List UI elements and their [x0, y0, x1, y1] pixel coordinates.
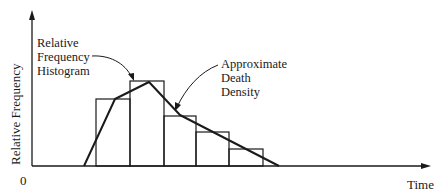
origin-label: 0 [20, 173, 27, 188]
histogram-label-line: Frequency [37, 50, 91, 64]
diagram: Relative Frequency Time 0 Relative Frequ… [0, 0, 439, 194]
diagram-canvas: Relative Frequency Time 0 Relative Frequ… [0, 0, 439, 194]
density-label-line: Death [221, 71, 252, 85]
y-axis-arrow-icon [29, 10, 35, 20]
y-axis-label: Relative Frequency [8, 63, 23, 165]
histogram-bar [96, 99, 130, 166]
x-axis-arrow-icon [421, 163, 431, 169]
density-label-line: Approximate [221, 57, 287, 71]
density-pointer [177, 65, 218, 107]
histogram-pointer-arrow-icon [128, 73, 134, 81]
density-pointer-arrow-icon [175, 102, 181, 111]
histogram-bar [229, 149, 263, 166]
histogram-label-line: Relative [37, 36, 79, 50]
density-label-line: Density [221, 85, 261, 99]
histogram-label-line: Histogram [37, 64, 90, 78]
histogram-bar [164, 116, 196, 166]
x-axis-label: Time [407, 177, 434, 192]
histogram-pointer [92, 56, 132, 78]
